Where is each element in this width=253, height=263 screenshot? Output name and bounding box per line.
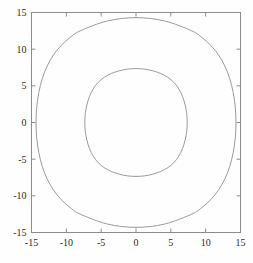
y-axis-tick-labels: 151050-5-10-15	[13, 7, 26, 238]
axes-frame	[32, 13, 241, 233]
x-tick-label-3: 0	[134, 237, 139, 248]
x-tick-label-4: 5	[168, 237, 173, 248]
x-axis-ticks	[32, 13, 241, 233]
plot-canvas: -15-10-5051015 151050-5-10-15	[0, 0, 253, 263]
curve-outer-contour	[36, 18, 236, 228]
y-tick-label-1: 10	[17, 44, 27, 55]
y-axis-ticks	[32, 13, 241, 233]
x-tick-label-6: 15	[236, 237, 246, 248]
figure-container: -15-10-5051015 151050-5-10-15	[0, 0, 253, 263]
plot-border	[32, 13, 241, 233]
x-tick-label-5: 10	[201, 237, 211, 248]
y-tick-label-5: -10	[13, 190, 26, 201]
x-axis-tick-labels: -15-10-5051015	[25, 237, 246, 248]
x-tick-label-0: -15	[25, 237, 38, 248]
y-tick-label-2: 5	[22, 80, 27, 91]
y-tick-label-0: 15	[17, 7, 27, 18]
x-tick-label-1: -10	[60, 237, 73, 248]
y-tick-label-3: 0	[22, 117, 27, 128]
x-tick-label-2: -5	[97, 237, 105, 248]
curve-inner-contour	[85, 69, 187, 177]
contour-curves	[36, 18, 236, 228]
y-tick-label-6: -15	[13, 227, 26, 238]
y-tick-label-4: -5	[18, 154, 26, 165]
